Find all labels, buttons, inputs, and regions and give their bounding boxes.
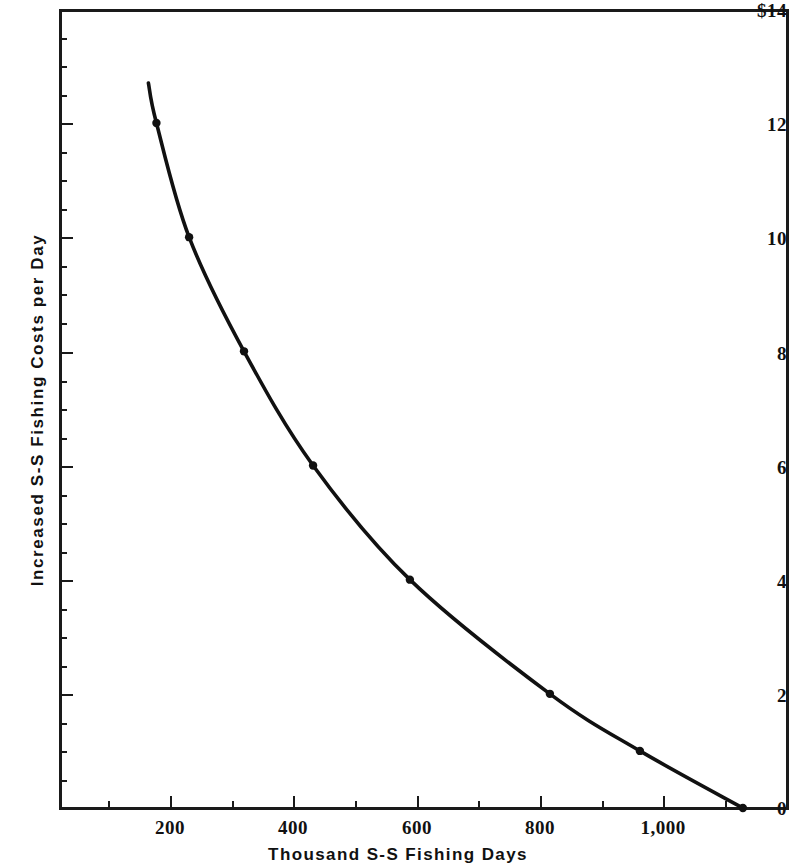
y-minor-tick xyxy=(62,523,67,525)
y-minor-tick xyxy=(62,266,67,268)
y-minor-tick xyxy=(62,666,67,668)
data-point-marker xyxy=(152,119,160,127)
x-axis-title: Thousand S-S Fishing Days xyxy=(0,845,796,865)
y-tick-2 xyxy=(62,694,73,696)
y-tick-10 xyxy=(62,237,73,239)
x-tick-label-400: 400 xyxy=(248,818,338,837)
data-point-marker xyxy=(240,347,248,355)
y-tick-label-2: 2 xyxy=(740,686,796,705)
y-minor-tick xyxy=(62,751,67,753)
x-axis-line xyxy=(59,807,789,810)
x-tick-label-1000: 1,000 xyxy=(618,818,708,837)
chart-figure: $14 12 10 8 6 4 2 0 200 400 600 800 1,00… xyxy=(0,0,796,867)
y-tick-12 xyxy=(62,123,73,125)
y-tick-label-14: $14 xyxy=(740,1,796,20)
y-minor-tick xyxy=(62,637,67,639)
data-point-marker xyxy=(309,461,317,469)
x-minor-tick xyxy=(232,801,234,807)
y-axis-title: Increased S-S Fishing Costs per Day xyxy=(28,150,48,670)
y-tick-label-10: 10 xyxy=(740,229,796,248)
x-tick-label-600: 600 xyxy=(372,818,462,837)
y-tick-label-8: 8 xyxy=(740,344,796,363)
cost-curve-line xyxy=(148,83,742,808)
y-tick-label-6: 6 xyxy=(740,458,796,477)
data-point-marker xyxy=(636,747,644,755)
y-minor-tick xyxy=(62,723,67,725)
x-tick-label-800: 800 xyxy=(495,818,585,837)
y-minor-tick xyxy=(62,438,67,440)
y-minor-tick xyxy=(62,780,67,782)
y-tick-8 xyxy=(62,352,73,354)
x-minor-tick xyxy=(478,801,480,807)
y-tick-label-4: 4 xyxy=(740,572,796,591)
plot-frame-top xyxy=(59,9,789,12)
y-tick-0 xyxy=(62,807,73,809)
x-tick-600 xyxy=(417,796,419,807)
y-minor-tick xyxy=(62,66,67,68)
y-tick-14 xyxy=(62,9,73,11)
y-tick-label-0: 0 xyxy=(740,799,796,818)
y-tick-4 xyxy=(62,580,73,582)
x-tick-800 xyxy=(540,796,542,807)
x-minor-tick xyxy=(602,801,604,807)
y-minor-tick xyxy=(62,609,67,611)
y-minor-tick xyxy=(62,294,67,296)
y-minor-tick xyxy=(62,152,67,154)
x-minor-tick xyxy=(355,801,357,807)
x-tick-400 xyxy=(293,796,295,807)
y-minor-tick xyxy=(62,495,67,497)
cost-curve-markers xyxy=(152,119,747,812)
y-minor-tick xyxy=(62,95,67,97)
y-minor-tick xyxy=(62,38,67,40)
y-minor-tick xyxy=(62,409,67,411)
data-point-marker xyxy=(546,690,554,698)
y-minor-tick xyxy=(62,381,67,383)
y-minor-tick xyxy=(62,552,67,554)
x-tick-1000 xyxy=(663,796,665,807)
y-minor-tick xyxy=(62,209,67,211)
x-minor-tick xyxy=(108,801,110,807)
x-tick-200 xyxy=(170,796,172,807)
data-point-marker xyxy=(185,233,193,241)
data-point-marker xyxy=(406,575,414,583)
y-minor-tick xyxy=(62,323,67,325)
plot-area xyxy=(0,0,796,867)
x-tick-label-200: 200 xyxy=(125,818,215,837)
y-minor-tick xyxy=(62,180,67,182)
y-tick-label-12: 12 xyxy=(740,115,796,134)
y-tick-6 xyxy=(62,466,73,468)
x-minor-tick xyxy=(725,801,727,807)
